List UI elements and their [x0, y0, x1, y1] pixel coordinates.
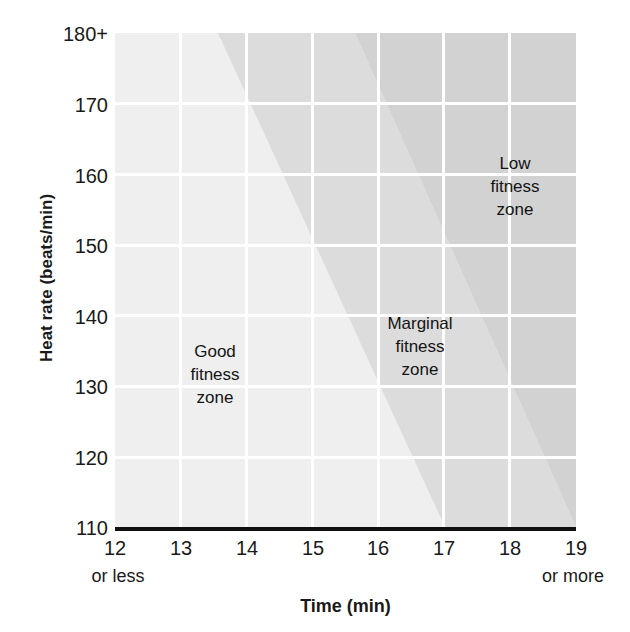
- zone-label-marginal-line3: zone: [355, 358, 485, 381]
- gridline-v-18: [508, 33, 511, 527]
- zone-label-good-line3: zone: [150, 386, 280, 409]
- zone-label-good-fitness: Good fitness zone: [150, 340, 280, 409]
- gridline-v-16: [377, 33, 380, 527]
- zone-label-low-fitness: Low fitness zone: [455, 152, 575, 221]
- x-tick-label-17: 17: [414, 536, 474, 560]
- gridline-h-150: [115, 244, 576, 247]
- gridline-v-15: [311, 33, 314, 527]
- gridline-v-17: [442, 33, 445, 527]
- zone-label-low-line2: fitness: [455, 175, 575, 198]
- fitness-zone-chart: Heat rate (beats/min) 180+ 170 160 150 1…: [0, 0, 630, 632]
- x-tick-label-19: 19: [546, 536, 606, 560]
- fitness-zones-shading: [115, 33, 576, 527]
- gridline-h-120: [115, 456, 576, 459]
- zone-label-marginal-fitness: Marginal fitness zone: [355, 312, 485, 381]
- y-tick-label-120: 120: [40, 448, 108, 468]
- y-tick-label-130: 130: [40, 377, 108, 397]
- y-tick-label-110: 110: [40, 518, 108, 538]
- plot-area: [115, 33, 576, 527]
- gridline-h-170: [115, 102, 576, 105]
- x-tick-label-13: 13: [151, 536, 211, 560]
- y-tick-label-150: 150: [40, 236, 108, 256]
- x-axis-title: Time (min): [115, 596, 576, 617]
- gridline-h-140: [115, 314, 576, 317]
- zone-label-good-line1: Good: [150, 340, 280, 363]
- y-tick-label-160: 160: [40, 166, 108, 186]
- x-axis-line: [115, 527, 576, 531]
- y-tick-label-140: 140: [40, 307, 108, 327]
- x-tick-label-16: 16: [348, 536, 408, 560]
- x-tick-label-12: 12: [85, 536, 145, 560]
- x-axis-note-right: or more: [518, 566, 628, 587]
- x-tick-label-14: 14: [217, 536, 277, 560]
- zone-label-low-line1: Low: [455, 152, 575, 175]
- gridline-v-13: [179, 33, 182, 527]
- y-tick-label-170: 170: [40, 95, 108, 115]
- gridline-v-14: [245, 33, 248, 527]
- zone-label-low-line3: zone: [455, 198, 575, 221]
- x-axis-tick-labels: 12 13 14 15 16 17 18 19: [115, 536, 576, 562]
- zone-label-marginal-line2: fitness: [355, 335, 485, 358]
- zone-label-marginal-line1: Marginal: [355, 312, 485, 335]
- x-axis-note-left: or less: [68, 566, 168, 587]
- x-tick-label-15: 15: [283, 536, 343, 560]
- x-tick-label-18: 18: [480, 536, 540, 560]
- zone-label-good-line2: fitness: [150, 363, 280, 386]
- y-tick-label-180: 180+: [40, 24, 108, 44]
